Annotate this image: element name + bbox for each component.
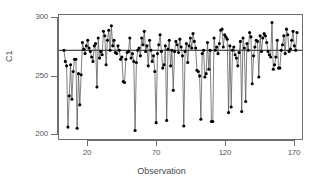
data-point (231, 49, 234, 52)
data-point (139, 54, 142, 57)
data-point (137, 47, 140, 50)
data-point (206, 41, 209, 44)
data-point (174, 40, 177, 43)
data-point (235, 57, 238, 60)
data-point (130, 57, 133, 60)
data-point (178, 38, 181, 41)
x-axis-title: Observation (0, 166, 323, 176)
data-point (143, 30, 146, 33)
data-point (276, 39, 279, 42)
data-point (62, 49, 65, 52)
data-point (131, 52, 134, 55)
data-point (289, 48, 292, 51)
data-point (110, 24, 113, 27)
data-point (172, 89, 175, 92)
data-point (184, 50, 187, 53)
data-point (214, 49, 217, 52)
data-point (94, 42, 97, 45)
data-point (180, 45, 183, 48)
data-point (244, 100, 247, 103)
data-point (290, 39, 293, 42)
data-point (189, 36, 192, 39)
data-point (257, 75, 260, 78)
data-point (173, 50, 176, 53)
data-point (281, 43, 284, 46)
data-point (102, 30, 105, 33)
data-point (197, 70, 200, 73)
data-point (128, 36, 131, 39)
data-point (111, 44, 114, 47)
x-tick-label-70: 70 (139, 148, 173, 157)
data-point (64, 60, 67, 63)
data-point (74, 58, 77, 61)
plot-area (58, 14, 303, 140)
chart-figure: 300 250 200 C1 20 70 120 170 Observation (0, 0, 323, 185)
data-point (188, 44, 191, 47)
data-point (294, 49, 297, 52)
data-point (166, 48, 169, 51)
data-point (230, 106, 233, 109)
data-point (98, 57, 101, 60)
series-markers-0 (62, 21, 298, 132)
data-point (169, 64, 172, 67)
data-point (82, 48, 85, 51)
data-point (194, 47, 197, 50)
data-point (239, 40, 242, 43)
data-point (124, 58, 127, 61)
data-point (293, 44, 296, 47)
data-point (70, 98, 73, 101)
data-point (141, 43, 144, 46)
data-point (165, 119, 168, 122)
y-tick-label-300: 300 (22, 12, 48, 21)
data-point (66, 126, 69, 129)
data-point (185, 42, 188, 45)
data-point (68, 94, 71, 97)
data-point (240, 110, 243, 113)
data-point (259, 34, 262, 37)
data-point (140, 36, 143, 39)
data-point (269, 55, 272, 58)
data-point (273, 63, 276, 66)
data-point (145, 44, 148, 47)
data-point (161, 67, 164, 70)
data-point (245, 42, 248, 45)
data-point (248, 31, 251, 34)
data-point (234, 53, 237, 56)
data-point (109, 49, 112, 52)
data-point (118, 49, 121, 52)
data-point (81, 41, 84, 44)
data-point (186, 61, 189, 64)
data-point (266, 50, 269, 53)
data-point (226, 38, 229, 41)
data-point (209, 49, 212, 52)
data-point (153, 70, 156, 73)
data-point (72, 70, 75, 73)
data-point (256, 40, 259, 43)
data-point (164, 44, 167, 47)
data-point (147, 64, 150, 67)
data-point (85, 44, 88, 47)
data-point (253, 45, 256, 48)
data-point (152, 54, 155, 57)
data-point (272, 68, 275, 71)
data-point (260, 50, 263, 53)
data-point (278, 67, 281, 70)
data-point (69, 63, 72, 66)
data-point (216, 52, 219, 55)
data-point (282, 34, 285, 37)
data-point (211, 120, 214, 123)
x-tick-label-170: 170 (277, 148, 311, 157)
data-point (274, 55, 277, 58)
data-point (76, 127, 79, 130)
data-point (181, 54, 184, 57)
data-point (193, 40, 196, 43)
data-point (207, 68, 210, 71)
y-axis-line (57, 17, 58, 135)
data-point (199, 118, 202, 121)
data-point (115, 52, 118, 55)
data-point (270, 21, 273, 24)
x-tick-label-20: 20 (70, 148, 104, 157)
data-point (222, 45, 225, 48)
data-point (148, 39, 151, 42)
data-point (157, 43, 160, 46)
